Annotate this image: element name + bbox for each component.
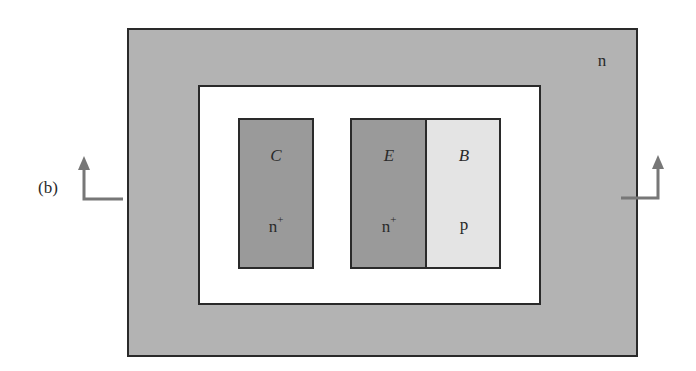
section-arrows (0, 0, 696, 371)
left-arrowhead-icon (78, 156, 90, 170)
right-section-arrow-icon (621, 167, 658, 198)
left-section-arrow-icon (84, 168, 123, 199)
right-arrowhead-icon (652, 155, 664, 169)
